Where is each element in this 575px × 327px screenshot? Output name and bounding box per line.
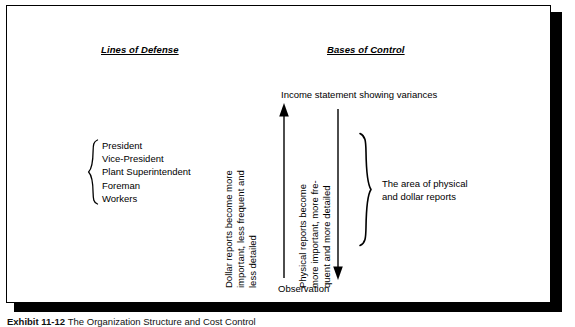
observation-label: Observation	[278, 283, 329, 294]
physical-reports-arrow-icon	[333, 109, 343, 280]
exhibit-caption: Exhibit 11-12 The Organization Structure…	[7, 316, 256, 327]
exhibit-caption-title: The Organization Structure and Cost Cont…	[68, 316, 256, 327]
caption-line: and dollar reports	[382, 190, 468, 203]
caption-line: quent and more detailed	[321, 180, 333, 288]
caption-line: The area of physical	[382, 177, 468, 190]
dollar-reports-caption: Dollar reports become more important, le…	[223, 170, 259, 288]
dollar-reports-arrow-icon	[279, 103, 289, 278]
scope-caption: The area of physical and dollar reports	[382, 177, 468, 203]
caption-line: important, less frequent and	[235, 170, 247, 288]
exhibit-frame: Lines of Defense Bases of Control Presid…	[6, 5, 551, 303]
right-curly-brace-icon	[357, 132, 372, 247]
scope-group: The area of physical and dollar reports	[357, 132, 468, 247]
exhibit-caption-label: Exhibit 11-12	[7, 316, 65, 327]
exhibit-canvas: Lines of Defense Bases of Control Presid…	[7, 6, 550, 302]
income-statement-label: Income statement showing variances	[281, 89, 437, 100]
caption-line: more important, more fre-	[309, 180, 321, 288]
physical-reports-caption: Physical reports become more important, …	[297, 180, 333, 288]
arrow-layer	[7, 6, 552, 304]
caption-line: Physical reports become	[297, 180, 309, 288]
caption-line: less detailed	[247, 170, 259, 288]
caption-line: Dollar reports become more	[223, 170, 235, 288]
